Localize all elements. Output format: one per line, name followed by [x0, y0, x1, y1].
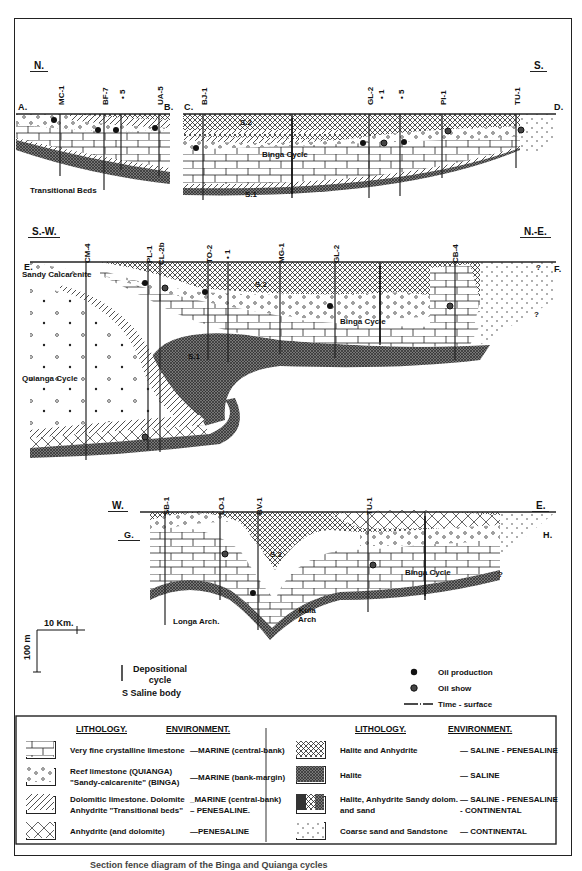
uncertain-mark-2: ?: [534, 310, 539, 319]
point-b: B.: [164, 102, 174, 112]
legend-lithology-text: Anhydrite (and dolomite): [70, 826, 190, 837]
direction-east: E.: [532, 500, 549, 512]
binga-cycle-label-ef: Binga Cycle: [340, 317, 386, 326]
legend-row-dolomite: Dolomitic limestone. Dolomite Anhydrite …: [26, 794, 281, 816]
legend-lithology-text: Halite: [340, 770, 460, 781]
reef-swatch-icon: [26, 768, 56, 786]
legend-environment-header-left: ENVIRONMENT.: [166, 724, 230, 734]
dolomite-swatch-icon: [26, 796, 56, 814]
scale-bar: [33, 626, 85, 672]
well-pl-1: PL-1: [145, 246, 154, 263]
legend-lithology-text: Halite and Anhydrite: [340, 745, 460, 756]
well-5a: • 5: [118, 90, 127, 99]
direction-north: N.: [30, 60, 48, 72]
legend-environment-text: — SALINE - PENESALINE - CONTINENTAL: [460, 794, 558, 816]
figure-caption: Section fence diagram of the Binga and Q…: [90, 860, 328, 870]
well-bj-1: BJ-1: [200, 88, 209, 105]
halite-anhydrite-swatch-icon: [296, 741, 326, 759]
point-a: A.: [18, 102, 28, 112]
transitional-beds-label: Transitional Beds: [30, 186, 97, 195]
direction-south: S.: [530, 60, 547, 72]
well-lo-1: LO-1: [217, 497, 226, 515]
well-to-2: TO-2: [205, 245, 214, 263]
limestone-swatch-icon: [26, 741, 56, 759]
legend-environment-text: —MARINE (central-bank): [190, 745, 285, 756]
anhydrite-swatch-icon: [26, 822, 56, 840]
uncertain-mark-3: ?: [498, 570, 503, 579]
longa-arch-label: Longa Arch.: [173, 617, 219, 626]
legend-lithology-header-left: LITHOLOGY.: [76, 724, 127, 734]
well-ua-5: UA-5: [156, 86, 165, 105]
saline-s2-label-ef: S.2: [255, 280, 267, 289]
legend-environment-text: — SALINE: [460, 770, 500, 781]
time-surface-label: Time - surface: [438, 700, 492, 709]
well-mg-1: MG-1: [277, 243, 286, 263]
legend-environment-text: —MARINE (bank-margin): [190, 772, 285, 783]
legend-row-anhydrite: Anhydrite (and dolomite) —PENESALINE: [26, 822, 249, 840]
saline-s1-label: S.1: [245, 190, 257, 199]
well-pi-1: PI-1: [439, 90, 448, 105]
direction-southwest: S.-W.: [28, 226, 60, 238]
saline-body-label: S Saline body: [122, 688, 181, 698]
legend-row-halite-anhydrite: Halite and Anhydrite — SALINE - PENESALI…: [296, 741, 558, 759]
legend-environment-text: — SALINE - PENESALINE: [460, 745, 558, 756]
legend-environment-text: —PENESALINE: [190, 826, 249, 837]
saline-s2-label: S.2: [240, 118, 252, 127]
point-h: H.: [543, 530, 553, 540]
legend-row-limestone: Very fine crystalline limestone —MARINE …: [26, 741, 285, 759]
well-sb-1: SB-1: [162, 497, 171, 515]
sand-swatch-icon: [296, 822, 326, 840]
point-c: C.: [184, 102, 194, 112]
well-1a: • 1: [377, 90, 386, 99]
well-cb-4: CB-4: [451, 244, 460, 263]
well-1b: • 1: [223, 250, 232, 259]
uncertain-mark-1: ?: [536, 263, 541, 272]
well-mc-1: MC-1: [57, 85, 66, 105]
well-cl-2b: CL-2b: [157, 242, 166, 265]
legend-row-sand: Coarse sand and Sandstone — CONTINENTAL: [296, 822, 527, 840]
oil-production-label: Oil production: [438, 668, 493, 677]
well-cm-4: CM-4: [83, 243, 92, 263]
scale-vertical-label: 100 m: [22, 634, 32, 660]
sandy-calcarenite-label: Sandy Calcarenite: [22, 270, 91, 279]
legend-lithology-text: Halite, Anhydrite Sandy dolom. and sand: [340, 794, 460, 816]
kula-arch-label: Kula Arch: [298, 606, 316, 624]
section-ef: [30, 262, 556, 458]
well-gl-2-b: GL-2: [332, 245, 341, 263]
saline-s2-label-gh: S.2: [270, 550, 282, 559]
oil-show-label: Oil show: [438, 684, 471, 693]
direction-west: W.: [108, 500, 128, 512]
legend-lithology-text: Very fine crystalline limestone: [70, 745, 190, 756]
direction-northeast: N.-E.: [520, 226, 551, 238]
well-gl-2: GL-2: [366, 87, 375, 105]
well-bf-7: BF-7: [101, 87, 110, 105]
point-d: D.: [554, 102, 564, 112]
legend-row-mixed: Halite, Anhydrite Sandy dolom. and sand …: [296, 794, 558, 816]
binga-cycle-label: Binga Cycle: [262, 150, 308, 159]
point-f: F.: [554, 264, 562, 274]
scale-horizontal-label: 10 Km.: [44, 618, 74, 628]
quianga-cycle-label: Quianga Cycle: [22, 374, 78, 383]
binga-cycle-label-gh: Binga Cycle: [405, 568, 451, 577]
legend-environment-header-right: ENVIRONMENT.: [448, 724, 512, 734]
legend-row-halite: Halite — SALINE: [296, 766, 500, 784]
legend-lithology-text: Reef limestone (QUIANGA) "Sandy-calcaren…: [70, 766, 190, 788]
mixed-swatch-icon: [296, 796, 326, 814]
depositional-cycle-label: Depositional cycle: [130, 664, 190, 686]
legend-row-reef: Reef limestone (QUIANGA) "Sandy-calcaren…: [26, 766, 285, 788]
point-g: G.: [118, 530, 140, 541]
halite-swatch-icon: [296, 766, 326, 784]
legend-lithology-header-right: LITHOLOGY.: [355, 724, 406, 734]
well-5b: • 5: [397, 90, 406, 99]
legend-environment-text: — CONTINENTAL: [460, 826, 527, 837]
section-ab: [16, 114, 170, 184]
legend-lithology-text: Coarse sand and Sandstone: [340, 826, 460, 837]
well-bv-1: BV-1: [255, 497, 264, 515]
legend-lithology-text: Dolomitic limestone. Dolomite Anhydrite …: [70, 794, 190, 816]
legend-environment-text: _MARINE (central-bank) – PENESALINE.: [190, 794, 281, 816]
well-tu-1-b: TU-1: [365, 497, 374, 515]
saline-s1-label-ef: S.1: [188, 352, 200, 361]
well-tu-1-a: TU-1: [513, 87, 522, 105]
